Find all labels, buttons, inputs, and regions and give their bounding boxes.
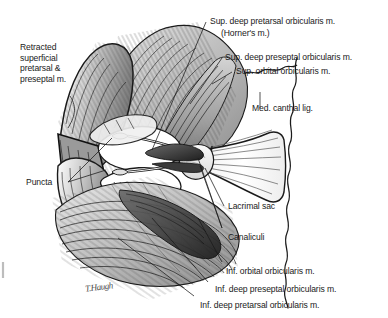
label-inf-orbital: Inf. orbital orbicularis m. — [226, 266, 315, 277]
label-sup-deep-pretarsal: Sup. deep pretarsal orbicularis m. — [210, 16, 335, 27]
label-retracted-line-1: Retracted — [20, 42, 110, 53]
label-med-canthal-lig: Med. canthal lig. — [252, 103, 313, 114]
label-retracted-line-4: preseptal m. — [20, 74, 110, 85]
label-lacrimal-sac: Lacrimal sac — [228, 201, 275, 212]
label-retracted-line-3: pretarsal & — [20, 63, 110, 74]
anatomical-figure: Retracted superficial pretarsal & presep… — [0, 0, 388, 318]
label-retracted-line-2: superficial — [20, 53, 110, 64]
label-inf-deep-preseptal: Inf. deep preseptal orbicularis m. — [215, 284, 336, 295]
label-canaliculi: Canaliculi — [228, 232, 264, 243]
label-retracted-superficial: Retracted superficial pretarsal & presep… — [20, 42, 110, 84]
label-inf-deep-pretarsal: Inf. deep pretarsal orbicularis m. — [200, 300, 319, 311]
label-sup-orbital: Sup. orbital orbicularis m. — [236, 66, 330, 77]
label-puncta: Puncta — [26, 177, 52, 188]
label-horners-muscle: (Horner's m.) — [221, 28, 270, 39]
label-sup-deep-preseptal: Sup. deep preseptal orbicularis m. — [225, 52, 352, 63]
